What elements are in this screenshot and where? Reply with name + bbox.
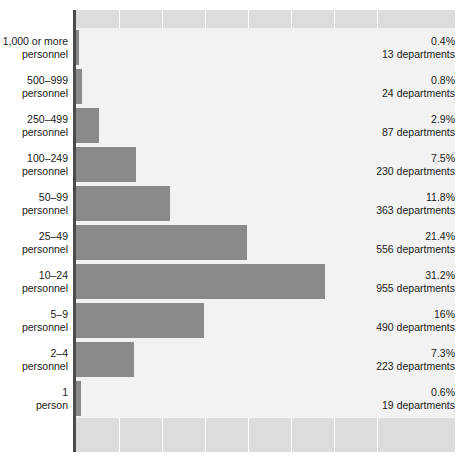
table-row: 5–9personnel16%490 departments [0, 301, 469, 340]
value-labels: 7.3%223 departments [376, 340, 455, 379]
count-label: 363 departments [376, 204, 455, 217]
bar-chart: 1,000 or morepersonnel0.4%13 departments… [0, 0, 469, 461]
category-label: 250–499personnel [0, 106, 68, 145]
category-label-line2: personnel [22, 87, 68, 100]
value-labels: 31.2%955 departments [376, 262, 455, 301]
category-label-line2: personnel [22, 204, 68, 217]
percent-label: 16% [434, 308, 455, 321]
count-label: 490 departments [376, 321, 455, 334]
category-label-line1: 1,000 or more [3, 35, 68, 48]
category-label-line2: personnel [22, 165, 68, 178]
category-label-line2: personnel [22, 360, 68, 373]
value-labels: 11.8%363 departments [376, 184, 455, 223]
table-row: 25–49personnel21.4%556 departments [0, 223, 469, 262]
percent-label: 11.8% [426, 191, 455, 204]
category-label: 50–99personnel [0, 184, 68, 223]
category-label-line2: personnel [22, 48, 68, 61]
bar [76, 342, 134, 377]
percent-label: 7.3% [431, 347, 455, 360]
percent-label: 2.9% [431, 113, 455, 126]
category-label-line2: personnel [22, 282, 68, 295]
value-labels: 16%490 departments [376, 301, 455, 340]
bar [76, 147, 136, 182]
table-row: 2–4personnel7.3%223 departments [0, 340, 469, 379]
table-row: 10–24personnel31.2%955 departments [0, 262, 469, 301]
count-label: 556 departments [376, 243, 455, 256]
bar [76, 30, 79, 65]
category-label-line2: person [36, 399, 68, 412]
table-row: 100–249personnel7.5%230 departments [0, 145, 469, 184]
category-label-line1: 50–99 [39, 191, 68, 204]
bar [76, 264, 325, 299]
count-label: 223 departments [376, 360, 455, 373]
count-label: 955 departments [376, 282, 455, 295]
count-label: 87 departments [382, 126, 455, 139]
category-label-line1: 500–999 [27, 74, 68, 87]
percent-label: 0.4% [431, 35, 455, 48]
count-label: 13 departments [382, 48, 455, 61]
value-labels: 0.6%19 departments [382, 379, 455, 418]
bar [76, 186, 170, 221]
value-labels: 7.5%230 departments [376, 145, 455, 184]
category-label-line2: personnel [22, 321, 68, 334]
value-labels: 21.4%556 departments [376, 223, 455, 262]
value-labels: 0.8%24 departments [382, 67, 455, 106]
table-row: 1,000 or morepersonnel0.4%13 departments [0, 28, 469, 67]
category-label: 25–49personnel [0, 223, 68, 262]
percent-label: 21.4% [425, 230, 455, 243]
percent-label: 7.5% [431, 152, 455, 165]
count-label: 24 departments [382, 87, 455, 100]
table-row: 50–99personnel11.8%363 departments [0, 184, 469, 223]
count-label: 230 departments [376, 165, 455, 178]
category-label-line1: 5–9 [50, 308, 68, 321]
percent-label: 31.2% [425, 269, 455, 282]
category-label-line1: 100–249 [27, 152, 68, 165]
bar [76, 108, 99, 143]
category-label-line2: personnel [22, 243, 68, 256]
table-row: 1person0.6%19 departments [0, 379, 469, 418]
category-label: 100–249personnel [0, 145, 68, 184]
category-label: 1,000 or morepersonnel [0, 28, 68, 67]
category-label: 5–9personnel [0, 301, 68, 340]
category-label: 1person [0, 379, 68, 418]
category-label-line1: 2–4 [50, 347, 68, 360]
bar [76, 225, 247, 260]
category-label-line1: 1 [62, 386, 68, 399]
category-label-line1: 25–49 [39, 230, 68, 243]
table-row: 250–499personnel2.9%87 departments [0, 106, 469, 145]
bar [76, 381, 81, 416]
category-label: 10–24personnel [0, 262, 68, 301]
category-label-line1: 250–499 [27, 113, 68, 126]
percent-label: 0.6% [431, 386, 455, 399]
category-label: 500–999personnel [0, 67, 68, 106]
value-labels: 0.4%13 departments [382, 28, 455, 67]
category-label-line1: 10–24 [39, 269, 68, 282]
table-row: 500–999personnel0.8%24 departments [0, 67, 469, 106]
bar [76, 69, 82, 104]
bar [76, 303, 204, 338]
percent-label: 0.8% [431, 74, 455, 87]
value-labels: 2.9%87 departments [382, 106, 455, 145]
category-label-line2: personnel [22, 126, 68, 139]
category-label: 2–4personnel [0, 340, 68, 379]
count-label: 19 departments [382, 399, 455, 412]
